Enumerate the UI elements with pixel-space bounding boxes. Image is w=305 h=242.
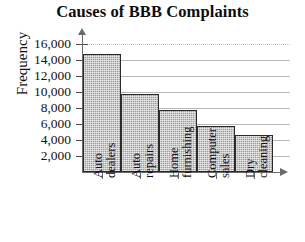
y-axis-tick-label: 10,000 bbox=[11, 85, 71, 99]
category-label-line1: Auto bbox=[130, 153, 143, 178]
gridline bbox=[82, 44, 290, 45]
category-label-line2: furnishing bbox=[181, 127, 194, 178]
y-axis-tick-label: 6,000 bbox=[11, 117, 71, 131]
category-label-line2: repairs bbox=[143, 144, 156, 178]
category-label-line1: Home bbox=[168, 147, 181, 178]
bar-chart: Causes of BBB Complaints Frequency 16,00… bbox=[0, 0, 305, 242]
category-label-line1: Auto bbox=[92, 153, 105, 178]
y-axis-tick-label: 8,000 bbox=[11, 101, 71, 115]
plot-area: 16,00014,00012,00010,0008,0006,0004,0002… bbox=[0, 0, 305, 242]
category-label-line1: Dry bbox=[244, 159, 257, 178]
category-label-line2: dealers bbox=[105, 143, 118, 178]
y-axis-tick-label: 2,000 bbox=[11, 149, 71, 163]
category-label-line1: Computer bbox=[206, 128, 219, 178]
y-axis-tick-label: 12,000 bbox=[11, 69, 71, 83]
y-axis-tick-label: 14,000 bbox=[11, 53, 71, 67]
y-axis-tick-label: 16,000 bbox=[11, 37, 71, 51]
category-label-line2: cleaning bbox=[257, 136, 270, 178]
y-axis-arrow-icon bbox=[78, 28, 86, 35]
y-axis-tick-label: 4,000 bbox=[11, 133, 71, 147]
category-label-line2: sales bbox=[219, 154, 232, 178]
x-axis-arrow-icon bbox=[280, 168, 288, 176]
